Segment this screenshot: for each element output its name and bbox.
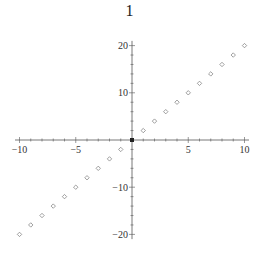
data-point bbox=[74, 185, 78, 189]
origin-point bbox=[130, 138, 134, 142]
data-point bbox=[164, 109, 168, 113]
data-point bbox=[119, 147, 123, 151]
data-point bbox=[197, 81, 201, 85]
data-point bbox=[40, 213, 44, 217]
data-point bbox=[141, 128, 145, 132]
data-point bbox=[220, 62, 224, 66]
x-tick-label: −5 bbox=[70, 144, 81, 155]
data-point bbox=[209, 72, 213, 76]
y-tick-label: −10 bbox=[112, 182, 128, 193]
data-point bbox=[242, 43, 246, 47]
data-point bbox=[186, 91, 190, 95]
data-point bbox=[152, 119, 156, 123]
y-tick-label: −20 bbox=[112, 229, 128, 240]
data-point bbox=[96, 166, 100, 170]
data-point bbox=[29, 223, 33, 227]
data-point bbox=[231, 53, 235, 57]
data-point bbox=[107, 157, 111, 161]
scatter-plot: −10−5510−20−101020 bbox=[0, 0, 259, 253]
x-tick-label: −10 bbox=[12, 144, 28, 155]
data-point bbox=[62, 194, 66, 198]
y-tick-label: 10 bbox=[118, 87, 128, 98]
data-point bbox=[17, 232, 21, 236]
data-point bbox=[85, 176, 89, 180]
data-point bbox=[175, 100, 179, 104]
x-tick-label: 5 bbox=[186, 144, 191, 155]
x-tick-label: 10 bbox=[240, 144, 250, 155]
y-tick-label: 20 bbox=[118, 40, 128, 51]
data-point bbox=[51, 204, 55, 208]
